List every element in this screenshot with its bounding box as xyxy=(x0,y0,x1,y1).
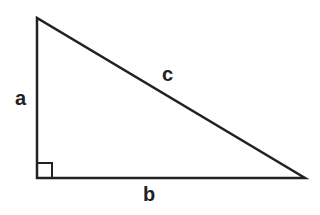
side-label-b: b xyxy=(143,184,155,204)
side-label-c: c xyxy=(162,64,173,84)
right-triangle xyxy=(37,18,305,178)
side-label-a: a xyxy=(15,88,26,108)
triangle-diagram xyxy=(0,0,320,215)
right-angle-marker xyxy=(37,163,52,178)
